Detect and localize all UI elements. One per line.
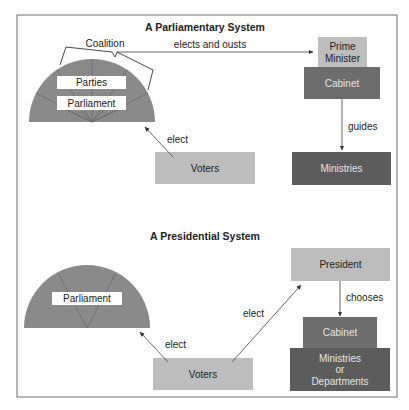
presidential-parliament-label: Parliament — [63, 293, 111, 304]
ministries-line1: Ministries — [319, 353, 361, 364]
cabinet-label: Cabinet — [325, 78, 360, 89]
parliamentary-title: A Parliamentary System — [145, 21, 265, 33]
elect-parliament-label: elect — [165, 339, 186, 350]
elect-president-label: elect — [243, 308, 264, 319]
coalition-label: Coalition — [86, 38, 125, 49]
presidential-title: A Presidential System — [150, 230, 260, 242]
parliament-hemicycle — [29, 59, 155, 122]
elect-parliament-arrow-2 — [140, 332, 168, 362]
prime-minister-label-line1: Prime — [329, 41, 356, 52]
ministries-label: Ministries — [320, 163, 362, 174]
elect-label: elect — [167, 134, 188, 145]
prime-minister-label-line2: Minister — [325, 53, 361, 64]
ministries-line2: or — [336, 364, 346, 375]
voters-label: Voters — [191, 163, 219, 174]
parties-label: Parties — [76, 77, 107, 88]
guides-label: guides — [348, 121, 377, 132]
ministries-line3: Departments — [311, 376, 368, 387]
presidential-voters-label: Voters — [189, 369, 217, 380]
chooses-label: chooses — [346, 292, 383, 303]
parliament-label: Parliament — [68, 98, 116, 109]
elects-and-ousts-label: elects and ousts — [174, 39, 246, 50]
presidential-cabinet-label: Cabinet — [323, 327, 358, 338]
diagram-canvas: A Parliamentary System Parties Parliamen… — [0, 0, 409, 410]
president-label: President — [319, 259, 361, 270]
